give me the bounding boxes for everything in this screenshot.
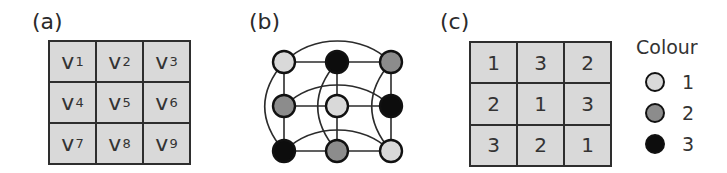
colour-cell: 3	[471, 126, 516, 165]
graph-node-v6	[380, 95, 402, 117]
constraint-graph	[255, 35, 415, 170]
cell-subscript: 9	[169, 136, 177, 151]
cell-symbol: v	[108, 90, 121, 115]
cell-subscript: 6	[169, 95, 177, 110]
legend-item-1: 1	[645, 70, 694, 94]
colour-cell: 1	[565, 126, 610, 165]
grid-cell-v6: v6	[144, 83, 189, 122]
cell-symbol: v	[61, 131, 74, 156]
colour-cell: 3	[518, 43, 563, 82]
panel-b-label: (b)	[249, 11, 280, 33]
colouring-grid: 1 3 2 2 1 3 3 2 1	[469, 41, 612, 167]
panel-a-label: (a)	[32, 11, 63, 33]
cell-subscript: 1	[75, 54, 83, 69]
cell-subscript: 5	[122, 95, 130, 110]
colour-cell: 1	[518, 84, 563, 123]
legend-label: 1	[682, 71, 694, 93]
cell-symbol: v	[155, 49, 168, 74]
graph-node-v7	[273, 140, 295, 162]
colour-cell: 3	[565, 84, 610, 123]
cell-subscript: 3	[169, 54, 177, 69]
cell-symbol: v	[155, 131, 168, 156]
cell-subscript: 2	[122, 54, 130, 69]
graph-node-v5	[326, 95, 348, 117]
cell-subscript: 4	[75, 95, 83, 110]
cell-symbol: v	[61, 49, 74, 74]
circle-icon	[645, 103, 665, 123]
legend-item-2: 2	[645, 101, 694, 125]
grid-cell-v8: v8	[97, 124, 142, 163]
circle-icon	[645, 72, 665, 92]
circle-icon	[645, 134, 665, 154]
grid-cell-v1: v1	[50, 42, 95, 81]
cell-symbol: v	[108, 49, 121, 74]
cell-symbol: v	[108, 131, 121, 156]
panel-c-label: (c)	[440, 11, 469, 33]
graph-node-v8	[326, 140, 348, 162]
cell-subscript: 8	[122, 136, 130, 151]
graph-node-v9	[380, 140, 402, 162]
graph-node-v4	[273, 95, 295, 117]
colour-cell: 2	[565, 43, 610, 82]
legend-title: Colour	[636, 36, 698, 58]
grid-cell-v5: v5	[97, 83, 142, 122]
grid-cell-v2: v2	[97, 42, 142, 81]
grid-cell-v3: v3	[144, 42, 189, 81]
graph-node-v1	[273, 51, 295, 73]
graph-nodes	[273, 51, 402, 162]
graph-node-v3	[380, 51, 402, 73]
graph-node-v2	[326, 51, 348, 73]
colour-cell: 2	[471, 84, 516, 123]
grid-cell-v9: v9	[144, 124, 189, 163]
colour-cell: 1	[471, 43, 516, 82]
variable-grid: v1 v2 v3 v4 v5 v6 v7 v8 v9	[48, 40, 191, 165]
cell-symbol: v	[61, 90, 74, 115]
colour-cell: 2	[518, 126, 563, 165]
cell-subscript: 7	[75, 136, 83, 151]
grid-cell-v4: v4	[50, 83, 95, 122]
legend-item-3: 3	[645, 132, 694, 156]
cell-symbol: v	[155, 90, 168, 115]
legend-label: 3	[682, 133, 694, 155]
legend-label: 2	[682, 102, 694, 124]
grid-cell-v7: v7	[50, 124, 95, 163]
